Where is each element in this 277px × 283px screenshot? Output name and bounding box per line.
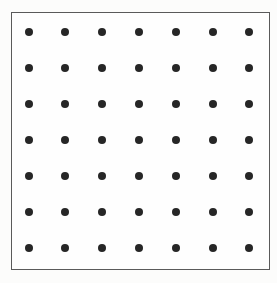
grid-dot xyxy=(61,172,69,180)
grid-dot xyxy=(25,64,33,72)
grid-dot xyxy=(98,244,106,252)
grid-dot xyxy=(25,244,33,252)
grid-dot xyxy=(25,136,33,144)
grid-dot xyxy=(25,172,33,180)
grid-dot xyxy=(209,244,217,252)
grid-frame-border xyxy=(11,12,270,270)
grid-dot xyxy=(245,136,253,144)
grid-dot xyxy=(172,172,180,180)
grid-dot xyxy=(245,64,253,72)
grid-dot xyxy=(98,136,106,144)
grid-dot xyxy=(61,64,69,72)
grid-dot xyxy=(61,136,69,144)
grid-dot xyxy=(135,100,143,108)
grid-dot xyxy=(98,100,106,108)
grid-dot xyxy=(135,64,143,72)
grid-dot xyxy=(245,28,253,36)
grid-dot xyxy=(209,64,217,72)
grid-dot xyxy=(172,64,180,72)
grid-dot xyxy=(98,208,106,216)
grid-dot xyxy=(25,208,33,216)
grid-dot xyxy=(98,28,106,36)
grid-dot xyxy=(61,100,69,108)
grid-dot xyxy=(172,208,180,216)
grid-dot xyxy=(135,208,143,216)
grid-dot xyxy=(25,28,33,36)
grid-dot xyxy=(172,136,180,144)
grid-dot xyxy=(209,100,217,108)
grid-dot xyxy=(135,28,143,36)
grid-dot xyxy=(25,100,33,108)
grid-dot xyxy=(98,64,106,72)
grid-dot xyxy=(245,244,253,252)
grid-dot xyxy=(245,208,253,216)
grid-dot xyxy=(135,244,143,252)
grid-dot xyxy=(172,28,180,36)
grid-dot xyxy=(209,172,217,180)
grid-dot xyxy=(135,172,143,180)
grid-dot xyxy=(209,28,217,36)
grid-dot xyxy=(61,244,69,252)
grid-dot xyxy=(245,172,253,180)
grid-dot xyxy=(135,136,143,144)
grid-dot xyxy=(209,136,217,144)
grid-dot xyxy=(61,208,69,216)
grid-dot xyxy=(98,172,106,180)
dot-grid-figure xyxy=(0,0,277,283)
grid-dot xyxy=(61,28,69,36)
grid-dot xyxy=(172,100,180,108)
grid-dot xyxy=(209,208,217,216)
grid-dot xyxy=(245,100,253,108)
grid-dot xyxy=(172,244,180,252)
